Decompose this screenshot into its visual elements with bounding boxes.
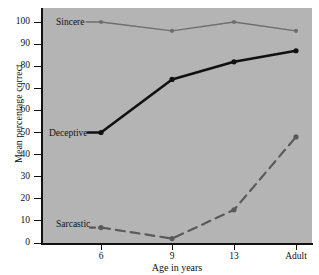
y-tick-label: 100 (0, 17, 30, 26)
y-tick-label: 20 (0, 194, 30, 203)
y-tick-mark (34, 22, 42, 23)
x-axis-title: Age in years (42, 262, 312, 273)
y-tick-mark (34, 243, 42, 244)
x-axis-line (41, 243, 313, 245)
y-tick-mark (34, 220, 42, 221)
x-tick-label: 9 (142, 251, 202, 261)
y-tick-mark (34, 132, 42, 133)
y-tick-mark (34, 88, 42, 89)
y-axis-title: Mean percentage correct (13, 34, 24, 194)
series-label-deceptive: Deceptive (49, 128, 88, 138)
y-tick-mark (34, 110, 42, 111)
y-tick-mark (34, 66, 42, 67)
x-tick-label: 13 (204, 251, 264, 261)
plot-area (42, 8, 312, 243)
y-tick-label: 0 (0, 238, 30, 247)
y-tick-mark (34, 198, 42, 199)
x-tick-label: Adult (266, 251, 319, 261)
x-tick-mark (101, 243, 102, 250)
y-tick-mark (34, 154, 42, 155)
y-tick-label: 10 (0, 216, 30, 225)
y-tick-mark (34, 176, 42, 177)
series-label-sarcastic: Sarcastic (56, 219, 90, 229)
x-tick-label: 6 (71, 251, 131, 261)
series-label-sincere: Sincere (56, 17, 85, 27)
x-tick-mark (234, 243, 235, 250)
line-chart-figure: 0102030405060708090100 6913Adult Sincere… (0, 0, 319, 275)
x-tick-mark (296, 243, 297, 250)
x-tick-mark (172, 243, 173, 250)
y-tick-mark (34, 44, 42, 45)
